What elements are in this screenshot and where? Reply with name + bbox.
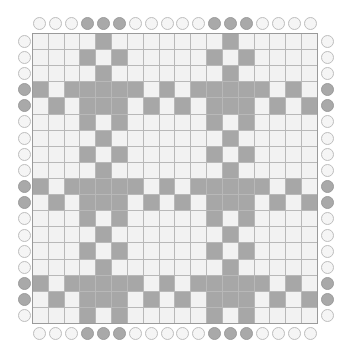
grid-cell-r2-c7[interactable] bbox=[144, 66, 159, 81]
grid-cell-r13-c11[interactable] bbox=[207, 243, 222, 258]
grid-cell-r8-c8[interactable] bbox=[160, 163, 175, 178]
grid-cell-r17-c16[interactable] bbox=[286, 308, 301, 323]
grid-cell-r5-c17[interactable] bbox=[302, 115, 317, 130]
grid-cell-r15-c3[interactable] bbox=[80, 276, 95, 291]
grid-cell-r2-c3[interactable] bbox=[80, 66, 95, 81]
grid-cell-r11-c14[interactable] bbox=[255, 211, 270, 226]
grid-cell-r6-c10[interactable] bbox=[191, 131, 206, 146]
grid-cell-r7-c4[interactable] bbox=[96, 147, 111, 162]
grid-cell-r17-c15[interactable] bbox=[270, 308, 285, 323]
grid-cell-r12-c11[interactable] bbox=[207, 227, 222, 242]
grid-cell-r8-c6[interactable] bbox=[128, 163, 143, 178]
grid-cell-r10-c0[interactable] bbox=[33, 195, 48, 210]
grid-cell-r15-c2[interactable] bbox=[65, 276, 80, 291]
grid-cell-r15-c10[interactable] bbox=[191, 276, 206, 291]
grid-cell-r14-c0[interactable] bbox=[33, 260, 48, 275]
grid-cell-r12-c6[interactable] bbox=[128, 227, 143, 242]
grid-cell-r10-c4[interactable] bbox=[96, 195, 111, 210]
grid-cell-r2-c13[interactable] bbox=[239, 66, 254, 81]
grid-cell-r2-c6[interactable] bbox=[128, 66, 143, 81]
grid-cell-r2-c5[interactable] bbox=[112, 66, 127, 81]
grid-cell-r1-c9[interactable] bbox=[175, 50, 190, 65]
grid-cell-r13-c14[interactable] bbox=[255, 243, 270, 258]
grid-cell-r14-c10[interactable] bbox=[191, 260, 206, 275]
grid-cell-r4-c2[interactable] bbox=[65, 98, 80, 113]
grid-cell-r4-c6[interactable] bbox=[128, 98, 143, 113]
grid-cell-r7-c10[interactable] bbox=[191, 147, 206, 162]
grid-cell-r5-c11[interactable] bbox=[207, 115, 222, 130]
grid-cell-r7-c14[interactable] bbox=[255, 147, 270, 162]
grid-cell-r14-c7[interactable] bbox=[144, 260, 159, 275]
grid-cell-r4-c13[interactable] bbox=[239, 98, 254, 113]
grid-cell-r12-c9[interactable] bbox=[175, 227, 190, 242]
grid-cell-r9-c6[interactable] bbox=[128, 179, 143, 194]
grid-cell-r17-c4[interactable] bbox=[96, 308, 111, 323]
grid-cell-r6-c3[interactable] bbox=[80, 131, 95, 146]
grid-cell-r12-c12[interactable] bbox=[223, 227, 238, 242]
grid-cell-r1-c6[interactable] bbox=[128, 50, 143, 65]
grid-cell-r15-c9[interactable] bbox=[175, 276, 190, 291]
grid-cell-r6-c17[interactable] bbox=[302, 131, 317, 146]
grid-cell-r17-c3[interactable] bbox=[80, 308, 95, 323]
grid-cell-r14-c13[interactable] bbox=[239, 260, 254, 275]
grid-cell-r2-c10[interactable] bbox=[191, 66, 206, 81]
grid-cell-r16-c10[interactable] bbox=[191, 292, 206, 307]
grid-cell-r7-c3[interactable] bbox=[80, 147, 95, 162]
grid-cell-r17-c2[interactable] bbox=[65, 308, 80, 323]
grid-cell-r1-c5[interactable] bbox=[112, 50, 127, 65]
grid-cell-r5-c16[interactable] bbox=[286, 115, 301, 130]
grid-cell-r10-c15[interactable] bbox=[270, 195, 285, 210]
grid-cell-r2-c11[interactable] bbox=[207, 66, 222, 81]
grid-cell-r2-c15[interactable] bbox=[270, 66, 285, 81]
grid-cell-r8-c15[interactable] bbox=[270, 163, 285, 178]
grid-cell-r10-c16[interactable] bbox=[286, 195, 301, 210]
grid-cell-r4-c5[interactable] bbox=[112, 98, 127, 113]
grid-cell-r3-c7[interactable] bbox=[144, 82, 159, 97]
grid-cell-r4-c14[interactable] bbox=[255, 98, 270, 113]
grid-cell-r1-c7[interactable] bbox=[144, 50, 159, 65]
grid-cell-r0-c11[interactable] bbox=[207, 34, 222, 49]
grid-cell-r8-c0[interactable] bbox=[33, 163, 48, 178]
grid-cell-r11-c17[interactable] bbox=[302, 211, 317, 226]
grid-cell-r5-c8[interactable] bbox=[160, 115, 175, 130]
grid-cell-r1-c16[interactable] bbox=[286, 50, 301, 65]
grid-cell-r1-c17[interactable] bbox=[302, 50, 317, 65]
grid-cell-r7-c0[interactable] bbox=[33, 147, 48, 162]
grid-cell-r13-c9[interactable] bbox=[175, 243, 190, 258]
grid-cell-r15-c15[interactable] bbox=[270, 276, 285, 291]
grid-cell-r14-c3[interactable] bbox=[80, 260, 95, 275]
grid-cell-r0-c3[interactable] bbox=[80, 34, 95, 49]
grid-cell-r6-c6[interactable] bbox=[128, 131, 143, 146]
grid-cell-r11-c15[interactable] bbox=[270, 211, 285, 226]
grid-cell-r16-c3[interactable] bbox=[80, 292, 95, 307]
grid-cell-r0-c15[interactable] bbox=[270, 34, 285, 49]
grid-cell-r3-c6[interactable] bbox=[128, 82, 143, 97]
grid-cell-r7-c15[interactable] bbox=[270, 147, 285, 162]
grid-cell-r6-c14[interactable] bbox=[255, 131, 270, 146]
grid-cell-r9-c15[interactable] bbox=[270, 179, 285, 194]
grid-cell-r5-c1[interactable] bbox=[49, 115, 64, 130]
grid-cell-r14-c4[interactable] bbox=[96, 260, 111, 275]
grid-cell-r17-c13[interactable] bbox=[239, 308, 254, 323]
grid-cell-r4-c9[interactable] bbox=[175, 98, 190, 113]
grid-cell-r3-c12[interactable] bbox=[223, 82, 238, 97]
grid-cell-r6-c8[interactable] bbox=[160, 131, 175, 146]
grid-cell-r4-c12[interactable] bbox=[223, 98, 238, 113]
grid-cell-r5-c9[interactable] bbox=[175, 115, 190, 130]
grid-cell-r9-c8[interactable] bbox=[160, 179, 175, 194]
grid-cell-r6-c5[interactable] bbox=[112, 131, 127, 146]
grid-cell-r0-c10[interactable] bbox=[191, 34, 206, 49]
grid-cell-r5-c6[interactable] bbox=[128, 115, 143, 130]
grid-cell-r8-c5[interactable] bbox=[112, 163, 127, 178]
grid-cell-r8-c7[interactable] bbox=[144, 163, 159, 178]
grid-cell-r7-c7[interactable] bbox=[144, 147, 159, 162]
grid-cell-r6-c0[interactable] bbox=[33, 131, 48, 146]
grid-cell-r1-c14[interactable] bbox=[255, 50, 270, 65]
grid-cell-r0-c13[interactable] bbox=[239, 34, 254, 49]
grid-cell-r17-c5[interactable] bbox=[112, 308, 127, 323]
grid-cell-r13-c10[interactable] bbox=[191, 243, 206, 258]
grid-cell-r12-c17[interactable] bbox=[302, 227, 317, 242]
grid-cell-r8-c10[interactable] bbox=[191, 163, 206, 178]
grid-cell-r17-c9[interactable] bbox=[175, 308, 190, 323]
grid-cell-r10-c3[interactable] bbox=[80, 195, 95, 210]
